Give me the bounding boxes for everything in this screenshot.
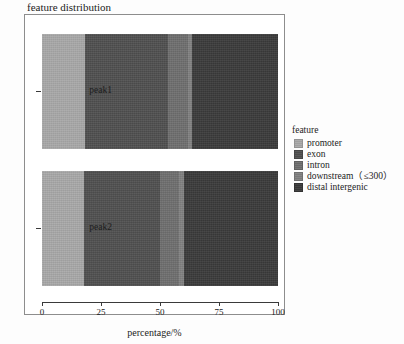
x-tick-label-75: 75	[215, 307, 224, 318]
x-tick-25	[101, 302, 102, 306]
x-tick-label-25: 25	[97, 307, 106, 318]
legend-label-intron: intron	[307, 160, 330, 171]
y-axis-label-peak2: peak2	[89, 222, 112, 233]
x-tick-label-100: 100	[271, 307, 285, 318]
legend-swatch-promoter	[294, 139, 303, 148]
legend-title: feature	[292, 124, 402, 136]
x-tick-50	[160, 302, 161, 306]
chart-root: feature distribution 0 25 50 75 100 peak…	[0, 0, 404, 344]
y-tick-peak2	[36, 228, 41, 229]
bar-segment-peak2-0	[42, 171, 84, 286]
bar-segment-peak1-4	[192, 34, 278, 149]
x-tick-label-50: 50	[156, 307, 165, 318]
y-axis-label-peak1: peak1	[89, 85, 112, 96]
bar-segment-peak2-4	[184, 171, 278, 286]
legend-swatch-distal-intergenic	[294, 183, 303, 192]
legend-label-distal-intergenic: distal intergenic	[307, 182, 368, 193]
legend-item-exon[interactable]: exon	[292, 149, 402, 160]
y-tick-peak1	[36, 91, 41, 92]
legend-label-exon: exon	[307, 149, 325, 160]
legend-swatch-exon	[294, 150, 303, 159]
x-tick-100	[278, 302, 279, 306]
legend: feature promoter exon intron downstream（…	[292, 124, 402, 193]
bar-segment-peak2-2	[160, 171, 179, 286]
x-tick-label-0: 0	[40, 307, 45, 318]
plot-area	[42, 16, 278, 301]
bar-segment-peak1-0	[42, 34, 85, 149]
plot-frame: 0 25 50 75 100	[24, 14, 285, 315]
legend-swatch-downstream	[294, 172, 303, 181]
bar-row-peak1	[42, 34, 278, 149]
legend-item-downstream[interactable]: downstream（≤300）	[292, 171, 402, 182]
bar-segment-peak1-2	[168, 34, 188, 149]
legend-item-promoter[interactable]: promoter	[292, 138, 402, 149]
legend-swatch-intron	[294, 161, 303, 170]
bar-row-peak2	[42, 171, 278, 286]
legend-label-downstream: downstream（≤300）	[307, 171, 393, 182]
page-title: feature distribution	[27, 1, 111, 14]
legend-item-distal-intergenic[interactable]: distal intergenic	[292, 182, 402, 193]
x-tick-0	[42, 302, 43, 306]
legend-item-intron[interactable]: intron	[292, 160, 402, 171]
x-tick-75	[219, 302, 220, 306]
legend-label-promoter: promoter	[307, 138, 342, 149]
x-axis-title: percentage/%	[24, 327, 285, 339]
